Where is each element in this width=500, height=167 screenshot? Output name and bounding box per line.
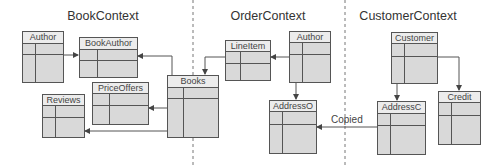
- copied-label: Copied: [331, 114, 363, 125]
- entity-title: Credit: [439, 92, 480, 103]
- entity-credit: Credit: [438, 91, 481, 145]
- entity-title: AddressC: [378, 102, 425, 114]
- entity-title: Author: [290, 32, 330, 43]
- entity-title: BookAuthor: [80, 38, 137, 50]
- entity-address-c: AddressC: [377, 101, 426, 155]
- entity-title: Customer: [392, 33, 437, 44]
- entity-title: Books: [168, 76, 218, 88]
- entity-book-author: BookAuthor: [79, 37, 138, 78]
- entity-price-offers: PriceOffers: [92, 82, 149, 125]
- entity-author-order: Author: [289, 31, 331, 83]
- entity-customer: Customer: [391, 32, 438, 84]
- entity-title: LineItem: [226, 41, 270, 52]
- entity-address-o: AddressO: [269, 100, 317, 154]
- entity-author-book: Author: [22, 31, 64, 83]
- entity-line-item: LineItem: [225, 40, 271, 81]
- entity-title: Reviews: [43, 95, 84, 106]
- entity-reviews: Reviews: [42, 94, 85, 138]
- entity-title: PriceOffers: [93, 83, 148, 94]
- bounded-context-diagram: BookContext OrderContext CustomerContext: [0, 0, 500, 167]
- entity-title: AddressO: [270, 101, 316, 112]
- entity-books: Books: [167, 75, 219, 138]
- entity-title: Author: [23, 32, 63, 44]
